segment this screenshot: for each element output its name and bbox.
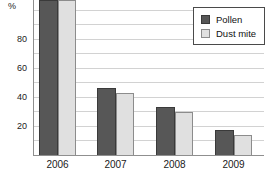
legend-swatch-icon (201, 29, 210, 38)
y-axis-unit-label: % (8, 1, 16, 12)
x-category-label: 2006 (36, 159, 80, 171)
y-tick-label: 20 (0, 121, 27, 132)
bar-pollen-2006 (39, 0, 58, 155)
y-tick-label: 40 (0, 92, 27, 103)
legend-label: Dust mite (216, 28, 256, 39)
legend: PollenDust mite (193, 7, 265, 45)
legend-swatch-icon (201, 15, 210, 24)
legend-label: Pollen (216, 14, 242, 25)
legend-item-pollen: Pollen (201, 13, 259, 27)
x-axis-line (33, 155, 264, 156)
y-tick-label: 60 (0, 63, 27, 74)
bar-dust-mite-2009 (234, 135, 253, 155)
bar-pollen-2008 (156, 107, 175, 155)
x-category-label: 2007 (94, 159, 138, 171)
y-axis-line (33, 0, 34, 155)
bar-chart: 20406080%2006200720082009PollenDust mite (0, 0, 268, 177)
bar-dust-mite-2007 (116, 93, 135, 155)
bar-dust-mite-2008 (175, 112, 194, 156)
x-category-label: 2009 (212, 159, 256, 171)
bar-pollen-2009 (215, 130, 234, 155)
bar-dust-mite-2006 (58, 0, 77, 155)
legend-item-dust-mite: Dust mite (201, 27, 259, 41)
bar-pollen-2007 (97, 88, 116, 155)
x-category-label: 2008 (153, 159, 197, 171)
y-tick-label: 80 (0, 34, 27, 45)
